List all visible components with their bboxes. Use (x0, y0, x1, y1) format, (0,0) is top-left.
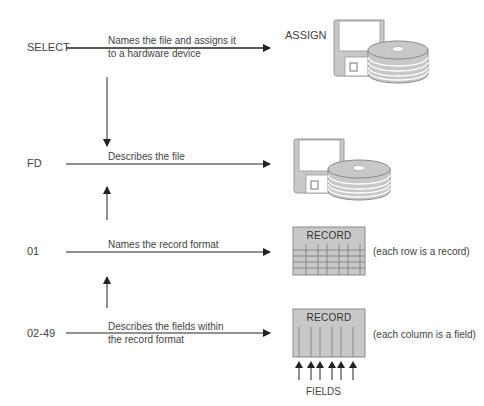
record-title: RECORD (293, 312, 365, 323)
fields-label: FIELDS (306, 386, 341, 397)
record-columns-icon (0, 0, 484, 406)
field-note: (each column is a field) (373, 329, 476, 340)
field-arrows (295, 361, 357, 380)
